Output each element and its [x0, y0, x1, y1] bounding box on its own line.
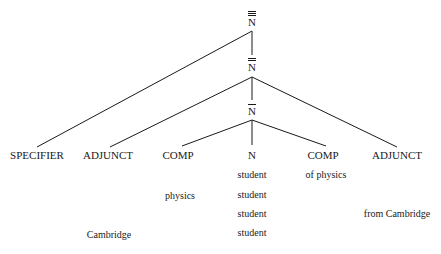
node-n-triple-bar: N: [248, 11, 256, 28]
node-label: N: [248, 61, 256, 73]
word-cambridge: Cambridge: [87, 230, 131, 240]
label-head-n: N: [248, 150, 256, 161]
edge-n1-comp-right: [252, 120, 326, 146]
label-adjunct-left: ADJUNCT: [83, 150, 133, 161]
word-student: student: [238, 190, 267, 200]
node-label: N: [248, 16, 256, 28]
word-student: student: [238, 209, 267, 219]
word-physics: physics: [165, 191, 195, 201]
word-student: student: [238, 228, 267, 238]
edge-n1-comp-left: [182, 120, 252, 146]
node-n-double-bar: N: [248, 58, 256, 73]
word-from-cambridge: from Cambridge: [364, 209, 430, 219]
label-specifier: SPECIFIER: [10, 150, 64, 161]
node-n-single-bar: N: [248, 104, 256, 117]
word-student: student: [238, 170, 267, 180]
label-adjunct-right: ADJUNCT: [372, 150, 422, 161]
word-of-physics: of physics: [306, 170, 347, 180]
label-comp-right: COMP: [307, 150, 338, 161]
edge-n2-adjunct-right: [252, 77, 397, 147]
edge-n2-adjunct-left: [110, 77, 252, 147]
node-label: N: [248, 105, 256, 117]
label-comp-left: COMP: [162, 150, 193, 161]
